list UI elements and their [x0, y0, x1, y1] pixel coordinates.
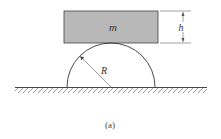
radius-label: R [100, 65, 107, 76]
arrow-down-icon [182, 38, 185, 42]
mass-label: m [109, 21, 117, 33]
semicylinder [67, 43, 155, 87]
diagram-canvas: m h R (a) [0, 0, 221, 139]
ground [12, 88, 208, 95]
height-dimension [160, 11, 191, 43]
height-label: h [179, 22, 184, 33]
ground-hatching [12, 88, 208, 94]
arrow-up-icon [182, 12, 185, 16]
figure-caption: (a) [105, 120, 115, 130]
